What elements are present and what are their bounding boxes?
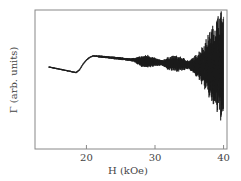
x-axis-ticks: 203040 [80, 145, 230, 163]
x-axis-label: H (kOe) [108, 165, 148, 176]
y-axis-label: Γ (arb. units) [8, 47, 19, 114]
x-tick-label: 30 [149, 152, 162, 163]
x-tick-label: 20 [80, 152, 93, 163]
gamma-trace [49, 11, 224, 120]
data-trace [49, 11, 224, 120]
x-tick-label: 40 [217, 152, 230, 163]
chart: 203040 H (kOe) Γ (arb. units) [0, 0, 241, 181]
plot-frame [35, 10, 227, 149]
